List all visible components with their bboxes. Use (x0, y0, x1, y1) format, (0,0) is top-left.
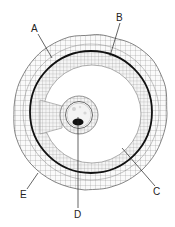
label-b: B (116, 12, 123, 23)
label-c: C (153, 186, 160, 197)
follicle-diagram: A B C D E (0, 0, 175, 227)
label-a: A (31, 23, 38, 34)
leader-line-e (27, 173, 38, 189)
cumulus-oophorus (40, 100, 62, 134)
label-d: D (74, 209, 81, 220)
label-e: E (20, 189, 27, 200)
